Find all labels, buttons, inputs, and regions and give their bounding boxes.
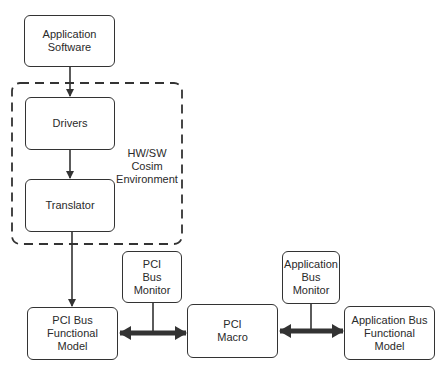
cosim-environment-label: HW/SW Cosim Environment [113,147,181,186]
drivers-label: Drivers [53,117,88,130]
translator-label: Translator [45,199,94,212]
application-software-box: Application Software [24,15,115,67]
application-bus-functional-model-box: Application Bus Functional Model [344,306,435,360]
pci-bus-monitor-label: PCI Bus Monitor [134,258,171,297]
pci-bus-functional-model-box: PCI Bus Functional Model [27,307,118,360]
application-bus-functional-model-label: Application Bus Functional Model [352,314,428,353]
application-software-label: Application Software [43,28,97,54]
pci-bus-monitor-box: PCI Bus Monitor [122,251,182,303]
pci-macro-label: PCI Macro [217,318,248,344]
drivers-box: Drivers [25,97,115,150]
pci-bus-functional-model-label: PCI Bus Functional Model [47,314,98,353]
pci-macro-box: PCI Macro [187,304,278,358]
application-bus-monitor-label: Application Bus Monitor [284,258,338,297]
application-bus-monitor-box: Application Bus Monitor [282,251,340,304]
translator-box: Translator [25,179,115,232]
